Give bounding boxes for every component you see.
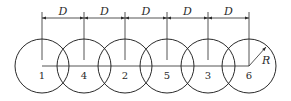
- circle-label: 3: [205, 70, 211, 81]
- circle-label: 1: [39, 70, 45, 81]
- circle-label: 6: [246, 70, 252, 81]
- circle-label: 5: [164, 70, 170, 81]
- spacing-label: D: [182, 5, 192, 18]
- spacing-label: D: [141, 5, 151, 18]
- spacing-label: D: [99, 5, 109, 18]
- spacing-label: D: [223, 5, 233, 18]
- circle-labels: 1 4 2 5 3 6: [39, 70, 252, 81]
- circle-spacing-diagram: D D D D D R 1 4 2 5 3 6: [0, 0, 291, 101]
- extension-lines: [42, 12, 249, 66]
- circle-label: 4: [81, 70, 87, 81]
- radius-label: R: [261, 54, 270, 67]
- circle-label: 2: [122, 70, 128, 81]
- spacing-label: D: [58, 5, 68, 18]
